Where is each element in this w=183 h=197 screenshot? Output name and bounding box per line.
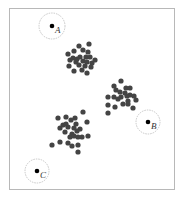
data-point [76,62,81,67]
data-point [112,104,117,109]
data-point [120,101,125,106]
data-point [74,128,79,133]
data-point [63,114,68,119]
data-point [74,56,79,61]
data-point [87,54,92,59]
data-point [71,68,76,73]
cluster-right [105,78,138,115]
data-point [105,94,110,99]
data-point [57,125,62,130]
data-point [88,64,93,69]
data-point [80,47,85,52]
data-point [76,43,81,48]
data-point [105,102,110,107]
data-point [55,115,60,120]
data-point [71,48,76,53]
data-point [79,67,84,72]
data-point [117,89,122,94]
data-point [105,110,110,115]
data-point [130,105,135,110]
cluster-bottom-left [49,109,90,154]
diagram-canvas: ABC [0,0,183,197]
data-point [133,97,138,102]
data-point [85,133,90,138]
data-point [85,49,90,54]
data-point [127,85,132,90]
data-point [125,101,130,106]
centroid-dot [146,120,151,125]
data-point [124,93,129,98]
centroid-dot [35,169,40,174]
data-point [62,129,67,134]
data-point [84,70,89,75]
centroid-label: B [151,121,157,131]
data-point [75,142,80,147]
centroid-label: A [54,25,61,35]
centroid-label: C [40,170,47,180]
centroid-c: C [25,159,49,183]
data-point [86,41,91,46]
data-point [73,121,78,126]
data-point [69,143,74,148]
data-point [49,142,54,147]
data-point [80,109,85,114]
data-point [118,78,123,83]
data-point [65,51,70,56]
data-point [84,119,89,124]
data-point [57,139,62,144]
data-point [115,96,120,101]
cluster-diagram: ABC [0,0,183,197]
cluster-top [65,41,97,75]
centroid-a: A [39,13,65,39]
centroid-dot [50,24,55,29]
centroid-b: B [136,110,160,134]
data-point [79,134,84,139]
data-point [66,63,71,68]
data-point [75,149,80,154]
data-point [72,115,77,120]
data-point [63,121,68,126]
